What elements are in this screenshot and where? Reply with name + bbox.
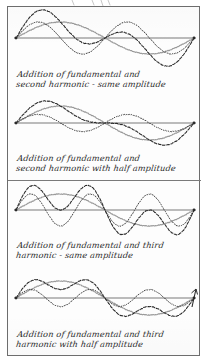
panel-2-plot	[8, 93, 201, 153]
panel-2: Addition of fundamental and second harmo…	[8, 93, 201, 180]
panel-4: Addition of fundamental and third harmon…	[8, 268, 201, 357]
panel-3-caption: Addition of fundamental and third harmon…	[15, 240, 198, 261]
panel-2-caption: Addition of fundamental and second harmo…	[15, 153, 198, 174]
panel-1: Addition of fundamental and second harmo…	[8, 7, 201, 93]
panel-4-caption: Addition of fundamental and third harmon…	[15, 329, 198, 350]
panel-1-plot	[8, 7, 201, 69]
panel-3-plot	[8, 181, 201, 241]
figure-sheet: Addition of fundamental and second harmo…	[7, 6, 200, 356]
panel-4-plot	[8, 268, 201, 330]
panel-3: Addition of fundamental and third harmon…	[8, 181, 201, 268]
panel-1-caption: Addition of fundamental and second harmo…	[15, 69, 198, 90]
